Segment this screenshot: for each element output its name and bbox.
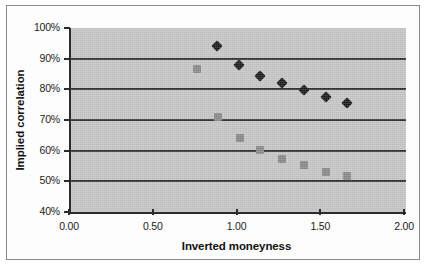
data-point-diamond	[320, 91, 331, 102]
x-axis-tick-label: 0.50	[143, 220, 163, 232]
gridline	[71, 180, 406, 182]
data-point-square	[300, 161, 308, 169]
x-axis-title: Inverted moneyness	[69, 240, 404, 252]
data-point-square	[214, 113, 222, 121]
x-axis-tick-label: 1.50	[310, 220, 330, 232]
y-axis-tick-label: 100%	[34, 21, 60, 33]
gridline	[71, 150, 406, 152]
x-axis-tick-label: 2.00	[394, 220, 414, 232]
y-axis-tick-label: 90%	[40, 52, 60, 64]
x-axis-tick	[236, 209, 238, 215]
gridline	[71, 119, 406, 121]
x-axis-tick-label: 1.00	[227, 220, 247, 232]
data-point-diamond	[342, 98, 353, 109]
data-point-diamond	[211, 41, 222, 52]
data-point-square	[343, 172, 351, 180]
gridline	[71, 88, 406, 90]
data-point-diamond	[255, 70, 266, 81]
data-point-square	[278, 155, 286, 163]
y-axis-tick-label: 70%	[40, 113, 60, 125]
data-point-diamond	[233, 59, 244, 70]
chart-figure: 40%50%60%70%80%90%100% 0.000.501.001.502…	[0, 0, 429, 273]
y-axis-tick-label: 40%	[40, 205, 60, 217]
y-axis-tick-label: 80%	[40, 82, 60, 94]
data-point-square	[236, 134, 244, 142]
x-axis-tick	[403, 209, 405, 215]
data-point-diamond	[276, 78, 287, 89]
x-axis-tick-label: 0.00	[59, 220, 79, 232]
x-axis-tick	[68, 209, 70, 215]
y-axis-title: Implied correlation	[14, 28, 28, 212]
data-point-diamond	[298, 85, 309, 96]
y-axis-tick-label: 50%	[40, 174, 60, 186]
data-point-square	[193, 65, 201, 73]
x-axis-tick	[152, 209, 154, 215]
x-axis-tick	[319, 209, 321, 215]
data-point-square	[322, 168, 330, 176]
y-axis-tick-label: 60%	[40, 144, 60, 156]
plot-area	[69, 28, 406, 214]
data-point-square	[256, 146, 264, 154]
